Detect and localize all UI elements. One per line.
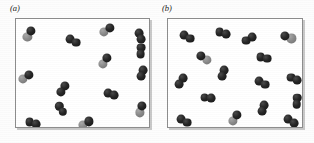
atom-primary — [233, 111, 242, 120]
atom-primary — [24, 70, 33, 79]
figure-canvas: (a)(b) — [0, 0, 314, 143]
panel-label-a: (a) — [10, 3, 20, 13]
atom-secondary-dark — [110, 91, 119, 100]
atom-secondary-dark — [222, 29, 231, 38]
atom-secondary-dark — [32, 119, 41, 128]
panel-label-b: (b) — [162, 3, 172, 13]
atom-secondary-dark — [183, 118, 192, 127]
atom-secondary-dark — [292, 100, 301, 109]
atom-secondary-dark — [72, 38, 81, 47]
atom-secondary-dark — [293, 76, 302, 85]
atom-secondary-dark — [242, 36, 251, 45]
atom-primary — [103, 54, 112, 63]
atom-secondary-dark — [263, 54, 272, 63]
panel-box-a — [15, 18, 150, 128]
atom-secondary-dark — [58, 108, 66, 116]
panel-box-b — [167, 18, 303, 128]
atom-secondary-dark — [186, 34, 195, 43]
atom-secondary-dark — [257, 107, 266, 116]
atom-primary — [138, 101, 147, 110]
atom-primary — [85, 117, 94, 126]
atom-secondary-dark — [261, 80, 270, 89]
atom-secondary-dark — [57, 87, 66, 96]
atom-secondary-dark — [217, 72, 226, 81]
atom-secondary-dark — [207, 94, 216, 103]
atom-primary — [106, 24, 115, 33]
atom-primary — [26, 26, 35, 35]
atom-secondary-dark — [136, 50, 145, 59]
atom-secondary-dark — [137, 72, 146, 81]
atom-secondary-dark — [175, 80, 184, 89]
atom-secondary-dark — [289, 119, 298, 128]
